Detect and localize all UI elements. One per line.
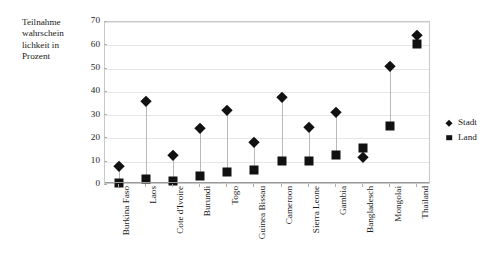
y-axis-tick-mark <box>104 137 107 138</box>
legend-item-label: Land <box>458 133 477 142</box>
data-point-stadt <box>195 123 206 134</box>
legend-item-stadt[interactable]: Stadt <box>444 115 502 130</box>
y-axis-tick-label: 40 <box>74 86 100 95</box>
plot-area <box>104 21 430 184</box>
data-point-land <box>223 168 232 177</box>
data-point-stadt <box>412 29 423 40</box>
x-axis-category-label: Burkina Faso <box>122 186 131 235</box>
participation-probability-chart: Teilnahme wahrschein lichkeit in Prozent… <box>0 0 504 256</box>
y-axis-tick-mark <box>104 21 107 22</box>
x-axis-category-labels: Burkina FasoLaosCote d'IvoireBurundiTogo… <box>104 186 430 256</box>
y-axis-tick-label: 0 <box>74 179 100 188</box>
x-axis-category-label: Sierra Leone <box>312 186 321 233</box>
x-axis-category-label: Burundi <box>203 186 212 216</box>
gridline <box>105 69 429 70</box>
diamond-marker-icon <box>444 118 454 128</box>
y-axis-tick-mark <box>104 91 107 92</box>
gridline <box>105 162 429 163</box>
gridline <box>105 22 429 23</box>
legend-item-label: Stadt <box>458 118 477 127</box>
gridline <box>105 45 429 46</box>
y-axis-tick-label: 70 <box>74 16 100 25</box>
data-point-stadt <box>168 149 179 160</box>
y-axis-tick-label: 10 <box>74 156 100 165</box>
x-axis-category-label: Cameroon <box>285 186 294 224</box>
gridline <box>105 115 429 116</box>
gridline <box>105 138 429 139</box>
x-axis-category-label: Laos <box>149 186 158 204</box>
y-axis-tick-labels: 010203040506070 <box>70 21 100 184</box>
data-point-stadt <box>385 61 396 72</box>
square-marker-icon <box>444 133 454 143</box>
y-axis-tick-mark <box>104 184 107 185</box>
y-axis-tick-mark <box>104 44 107 45</box>
point-connector-line <box>336 112 337 155</box>
data-point-land <box>277 156 286 165</box>
point-connector-line <box>227 110 228 172</box>
gridline <box>105 92 429 93</box>
x-axis-category-label: Togo <box>231 186 240 205</box>
point-connector-line <box>282 97 283 161</box>
data-point-stadt <box>140 96 151 107</box>
y-axis-tick-mark <box>104 161 107 162</box>
y-axis-tick-label: 50 <box>74 63 100 72</box>
y-axis-tick-label: 20 <box>74 133 100 142</box>
data-point-land <box>386 121 395 130</box>
y-axis-tick-mark <box>104 68 107 69</box>
data-point-land <box>304 156 313 165</box>
data-point-land <box>331 150 340 159</box>
y-axis-tick-mark <box>104 114 107 115</box>
chart-legend: StadtLand <box>444 115 502 145</box>
data-point-stadt <box>303 121 314 132</box>
x-axis-category-label: Mongolai <box>394 186 403 222</box>
x-axis-category-label: Gambia <box>339 186 348 215</box>
point-connector-line <box>390 66 391 125</box>
y-axis-tick-label: 30 <box>74 110 100 119</box>
point-connector-line <box>200 128 201 176</box>
y-axis-tick-label: 60 <box>74 40 100 49</box>
x-axis-category-label: Thailand <box>421 186 430 219</box>
data-point-land <box>413 40 422 49</box>
x-axis-category-label: Cote d'Ivoire <box>176 186 185 234</box>
legend-item-land[interactable]: Land <box>444 130 502 145</box>
x-axis-category-label: Guinea Bissau <box>258 186 267 239</box>
data-point-land <box>168 176 177 185</box>
x-axis-line <box>105 182 429 183</box>
data-point-land <box>196 171 205 180</box>
x-axis-category-label: Bangladesch <box>366 186 375 233</box>
point-connector-line <box>146 101 147 179</box>
data-point-land <box>250 165 259 174</box>
